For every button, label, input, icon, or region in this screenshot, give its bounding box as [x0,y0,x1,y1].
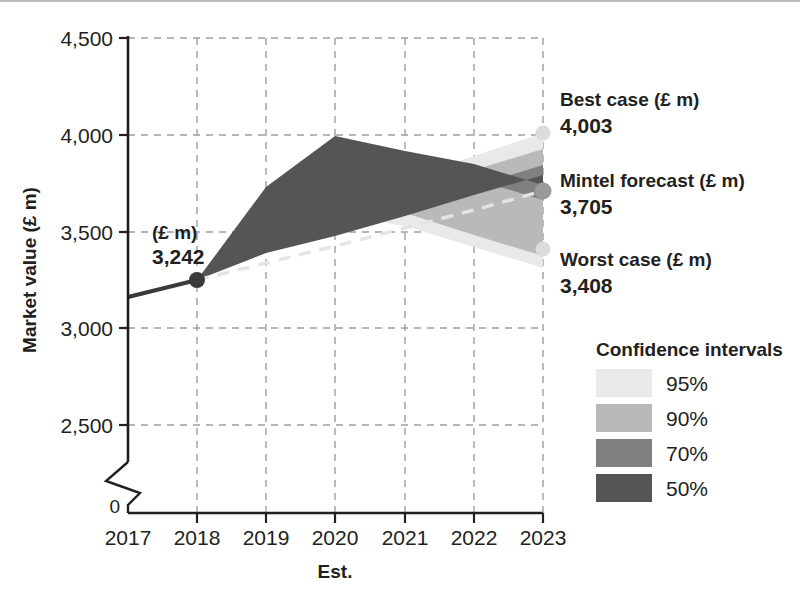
annotation-mintel-forecast: Mintel forecast (£ m) 3,705 [560,170,745,218]
annotation-worst-case: Worst case (£ m) 3,408 [560,249,712,297]
legend-swatch-70 [596,439,652,467]
legend-swatch-90 [596,404,652,432]
fan-chart: 4,500 4,000 3,500 3,000 2,500 0 2017 201… [0,0,800,595]
y-axis-zero-label: 0 [109,496,120,517]
y-tick-label: 2,500 [60,414,113,437]
marker-worst-case[interactable] [536,242,551,257]
x-tick-labels: 2017 2018 2019 2020 2021 2022 2023 [105,526,567,549]
x-tick-label: 2020 [312,526,359,549]
fan-chart-svg: 4,500 4,000 3,500 3,000 2,500 0 2017 201… [0,0,800,595]
legend-title: Confidence intervals [596,339,783,360]
annotation-best-case-title: Best case (£ m) [560,89,699,110]
x-tick-label: 2021 [382,526,429,549]
annotation-worst-case-title: Worst case (£ m) [560,249,712,270]
legend-label-50: 50% [666,477,708,500]
x-tick-label: 2022 [451,526,498,549]
annotation-start: (£ m) 3,242 [152,222,205,268]
legend-label-70: 70% [666,442,708,465]
x-tick-label: 2017 [105,526,152,549]
x-gridlines [197,38,543,513]
marker-mintel-forecast[interactable] [535,183,552,200]
marker-start-2018[interactable] [189,272,205,288]
y-tick-label: 3,000 [60,317,113,340]
actual-line [128,280,197,297]
legend-label-95: 95% [666,372,708,395]
legend: Confidence intervals 95% 90% 70% 50% [596,339,783,502]
x-tick-label: 2023 [520,526,567,549]
x-tick-label: 2018 [174,526,221,549]
y-axis-title: Market value (£ m) [19,187,40,353]
annotation-start-value: 3,242 [152,245,205,268]
annotation-best-case: Best case (£ m) 4,003 [560,89,699,137]
annotation-best-case-value: 4,003 [560,114,613,137]
y-tick-label: 3,500 [60,221,113,244]
legend-label-90: 90% [666,407,708,430]
x-axis-title: Est. [318,561,353,582]
legend-swatch-95 [596,369,652,397]
marker-best-case[interactable] [536,126,551,141]
y-tick-labels: 4,500 4,000 3,500 3,000 2,500 0 [60,27,120,517]
y-tick-label: 4,500 [60,27,113,50]
annotation-mintel-forecast-title: Mintel forecast (£ m) [560,170,745,191]
axes [106,36,543,523]
y-tick-label: 4,000 [60,124,113,147]
annotation-mintel-forecast-value: 3,705 [560,195,613,218]
legend-swatch-50 [596,474,652,502]
x-tick-label: 2019 [243,526,290,549]
annotation-worst-case-value: 3,408 [560,274,613,297]
annotation-start-title: (£ m) [152,222,197,243]
